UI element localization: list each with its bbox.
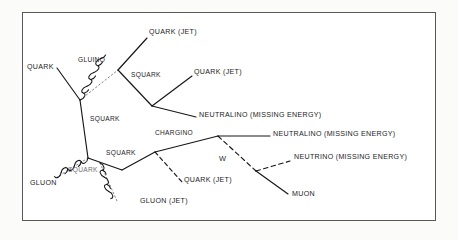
label-neutralino-lower: NEUTRALINO (MISSING ENERGY) xyxy=(273,131,395,138)
label-gluon-jet: GLUON (JET) xyxy=(140,198,188,205)
label-squark-center: SQUARK xyxy=(90,116,120,123)
label-quark-jet-top: QUARK (JET) xyxy=(149,29,197,36)
label-neutrino: NEUTRINO (MISSING ENERGY) xyxy=(294,154,407,161)
label-gluon-incoming: GLUON xyxy=(30,180,57,187)
label-squark-upper: SQUARK xyxy=(131,72,161,79)
label-w-boson: W xyxy=(219,155,226,162)
label-squark-faint: SQUARK xyxy=(68,167,98,174)
label-quark-jet-mid: QUARK (JET) xyxy=(194,69,242,76)
label-quark-jet-lower: QUARK (JET) xyxy=(184,177,232,184)
label-gluino: GLUINO xyxy=(78,57,105,64)
label-chargino: CHARGINO xyxy=(155,130,193,137)
label-muon: MUON xyxy=(292,191,315,198)
label-squark-lower: SQUARK xyxy=(106,150,136,157)
label-quark-incoming: QUARK xyxy=(27,64,54,71)
label-neutralino-upper: NEUTRALINO (MISSING ENERGY) xyxy=(199,112,321,119)
